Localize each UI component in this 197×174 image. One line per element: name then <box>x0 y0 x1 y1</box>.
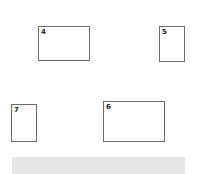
box-7: 7 <box>11 104 37 142</box>
box-label: 6 <box>106 103 111 111</box>
gray-bar <box>12 157 185 174</box>
box-label: 5 <box>162 28 167 36</box>
box-6: 6 <box>103 101 165 142</box>
box-label: 7 <box>14 106 19 114</box>
box-4: 4 <box>38 26 90 61</box>
box-5: 5 <box>159 26 185 62</box>
box-label: 4 <box>41 28 46 36</box>
